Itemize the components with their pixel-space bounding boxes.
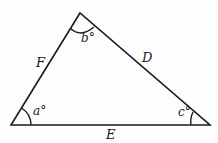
angle-label-a: a° bbox=[33, 105, 46, 117]
side-label-d: D bbox=[142, 51, 152, 64]
angle-arc-c bbox=[191, 112, 193, 125]
side-label-f: F bbox=[36, 56, 45, 69]
triangle-figure bbox=[0, 0, 218, 143]
angle-label-c: c° bbox=[178, 106, 191, 118]
angle-arc-a bbox=[22, 108, 32, 125]
angle-label-b: b° bbox=[81, 32, 95, 44]
triangle-diagram: b° F D a° c° E bbox=[0, 0, 218, 143]
side-label-e: E bbox=[106, 128, 116, 141]
